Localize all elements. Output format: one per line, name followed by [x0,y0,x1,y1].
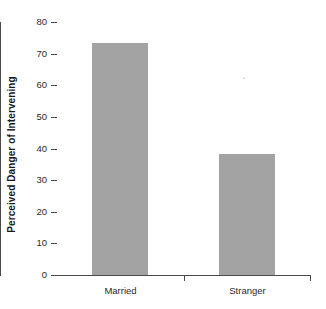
y-tick-label-wrap: 40 [9,144,47,154]
y-axis-line [0,22,1,276]
y-tick-label: 0 [11,270,47,280]
y-tick-label: 60 [11,80,47,90]
x-axis-label-stranger: Stranger [184,286,311,296]
bar-chart: Perceived Danger of Intervening 01020304… [0,0,326,309]
y-tick-label: 30 [11,175,47,185]
y-tick-label-wrap: 60 [9,80,47,90]
y-tick-label: 50 [11,112,47,122]
y-tick-label: 20 [11,207,47,217]
y-tick-mark [51,149,57,150]
y-tick-mark [51,54,57,55]
y-tick-mark [51,180,57,181]
y-tick-mark [51,243,57,244]
bar-married [92,43,148,275]
bar-stranger [219,154,275,275]
y-tick-mark [51,275,57,276]
y-tick-label-wrap: 0 [9,270,47,280]
x-tick-mark [310,276,311,281]
y-axis-label: Perceived Danger of Intervening [0,0,22,309]
y-tick-label-wrap: 10 [9,238,47,248]
y-tick-label-wrap: 70 [9,49,47,59]
x-axis-label-married: Married [57,286,184,296]
y-tick-mark [51,85,57,86]
x-tick-mark [184,276,185,281]
y-tick-label-wrap: 20 [9,207,47,217]
y-tick-label: 70 [11,49,47,59]
y-tick-label-wrap: 50 [9,112,47,122]
scan-artifact-speck [243,77,245,79]
y-tick-mark [51,117,57,118]
y-tick-mark [51,22,57,23]
y-tick-label-wrap: 80 [9,17,47,27]
y-tick-label: 80 [11,17,47,27]
y-tick-mark [51,212,57,213]
y-tick-label: 40 [11,144,47,154]
y-tick-label: 10 [11,238,47,248]
y-tick-label-wrap: 30 [9,175,47,185]
